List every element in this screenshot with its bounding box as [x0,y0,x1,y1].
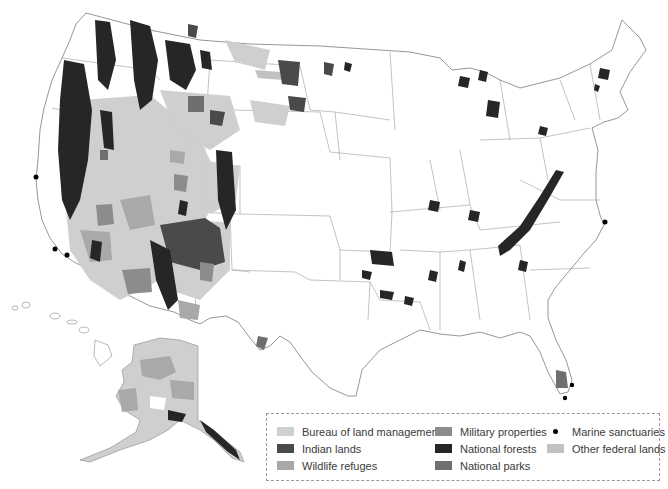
indian-lands-swatch [277,444,294,453]
marine-sanctuary-dot-icon [553,429,558,434]
national-forests-swatch [435,444,452,453]
legend-item-indian-lands: Indian lands [277,440,441,457]
national-parks-swatch [435,461,452,470]
legend-item-marine-sanctuaries: Marine sanctuaries [547,423,666,440]
legend-item-wildlife-refuges: Wildlife refuges [277,457,441,474]
legend-item-national-forests: National forests [435,440,547,457]
marine-sanctuary-dot [65,253,70,258]
legend-item-other-federal: Other federal lands [547,440,666,457]
marine-sanctuary-dot [53,247,58,252]
legend-column-2: Military properties National forests Nat… [435,423,547,474]
blm-swatch [277,427,294,436]
hawaii [12,302,112,366]
other-federal-swatch [547,444,564,453]
marine-sanctuary-dot [563,396,567,400]
legend-item-military: Military properties [435,423,547,440]
legend-label: National forests [460,443,536,455]
legend-column-1: Bureau of land management Indian lands W… [277,423,441,474]
legend-label: National parks [460,460,530,472]
legend-label: Other federal lands [572,443,666,455]
legend-label: Bureau of land management [302,426,441,438]
legend-column-3: Marine sanctuaries Other federal lands [547,423,666,457]
legend-item-blm: Bureau of land management [277,423,441,440]
legend-label: Marine sanctuaries [572,426,665,438]
legend-label: Indian lands [302,443,361,455]
marine-sanctuary-dot [570,383,574,387]
legend-label: Wildlife refuges [302,460,377,472]
marine-sanctuary-dot [603,220,608,225]
map-legend: Bureau of land management Indian lands W… [266,413,660,481]
legend-item-national-parks: National parks [435,457,547,474]
legend-label: Military properties [460,426,547,438]
wildlife-refuges-swatch [277,461,294,470]
military-swatch [435,427,452,436]
marine-sanctuary-dot [34,175,39,180]
